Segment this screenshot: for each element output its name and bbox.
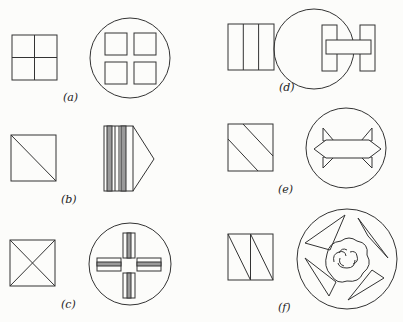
label-b: (b)	[61, 193, 77, 206]
panel-f-design	[297, 209, 397, 309]
panel-e-design	[306, 108, 386, 188]
panel-a-pattern	[12, 35, 57, 80]
label-d: (d)	[279, 81, 295, 94]
panel-a-design	[90, 18, 170, 98]
label-e: (e)	[278, 183, 293, 196]
figure-canvas	[0, 0, 403, 322]
label-a: (a)	[63, 91, 78, 104]
panel-f-pattern	[228, 234, 273, 280]
panel-b-design	[104, 126, 154, 191]
label-f: (f)	[278, 301, 291, 314]
panel-d-design	[274, 9, 375, 89]
panel-b-pattern	[11, 135, 56, 181]
label-c: (c)	[61, 298, 76, 311]
panel-c-pattern	[10, 240, 55, 286]
panel-e-pattern	[228, 124, 273, 171]
panel-d-pattern	[228, 24, 274, 70]
panel-c-design	[89, 223, 171, 305]
